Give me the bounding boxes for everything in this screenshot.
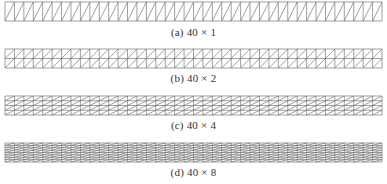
caption-d: (d) 40 × 8: [0, 166, 387, 178]
caption-label: (d): [171, 166, 184, 178]
caption-dims: 40 × 8: [187, 166, 216, 178]
mesh-40x8: [0, 0, 387, 184]
mesh-lines: [5, 143, 382, 162]
mesh-refinement-figure: (a) 40 × 1 (b) 40 × 2 (c) 40 × 4 (d) 40 …: [0, 0, 387, 184]
